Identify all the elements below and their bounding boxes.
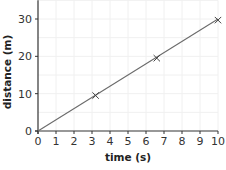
x-tick-label: 5 (125, 135, 132, 148)
x-tick-label: 0 (35, 135, 42, 148)
x-tick-label: 1 (53, 135, 60, 148)
x-tick-label: 2 (71, 135, 78, 148)
x-tick-label: 10 (211, 135, 225, 148)
y-tick-label: 0 (25, 125, 32, 138)
x-tick-label: 7 (161, 135, 168, 148)
x-tick-label: 3 (89, 135, 96, 148)
y-tick-label: 20 (18, 50, 32, 63)
x-tick-label: 6 (143, 135, 150, 148)
y-tick-label: 10 (18, 88, 32, 101)
y-tick-label: 30 (18, 13, 32, 26)
distance-time-chart: 0123456789100102030time (s)distance (m) (0, 0, 226, 170)
x-axis-label: time (s) (105, 151, 151, 163)
plot-area: 0123456789100102030time (s)distance (m) (0, 0, 226, 170)
x-tick-label: 8 (179, 135, 186, 148)
x-tick-label: 9 (197, 135, 204, 148)
x-tick-label: 4 (107, 135, 114, 148)
y-axis-label: distance (m) (1, 35, 13, 109)
